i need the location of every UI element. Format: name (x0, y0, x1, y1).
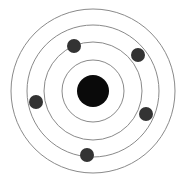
electron-4 (139, 107, 153, 121)
electron-5 (80, 148, 94, 162)
electron-3 (29, 95, 43, 109)
atom-diagram (0, 0, 180, 182)
nucleus (77, 75, 109, 107)
electron-2 (131, 48, 145, 62)
electron-1 (67, 39, 81, 53)
atom-svg (0, 0, 180, 182)
